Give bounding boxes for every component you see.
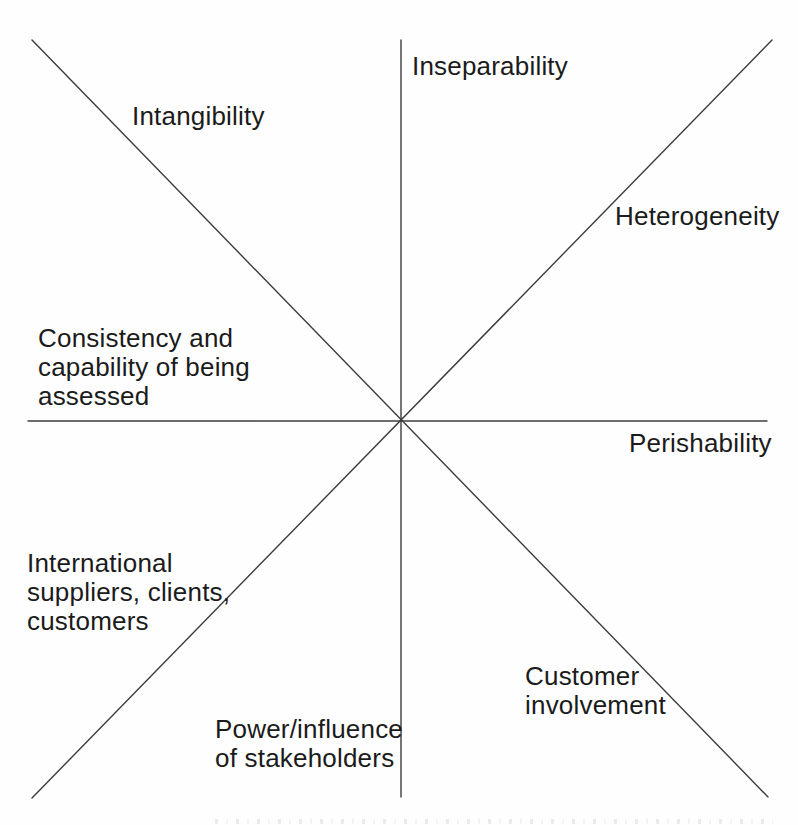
label-line: of stakeholders	[215, 744, 403, 773]
label-line: International	[27, 549, 230, 578]
label-line: capability of being	[38, 353, 250, 382]
label-power-influence-stakeholders: Power/influence of stakeholders	[215, 715, 403, 773]
spoke-lines	[0, 0, 798, 825]
label-line: Heterogeneity	[615, 202, 779, 231]
label-heterogeneity: Heterogeneity	[615, 202, 779, 231]
label-line: Perishability	[629, 429, 772, 458]
label-inseparability: Inseparability	[412, 52, 568, 81]
label-line: Consistency and	[38, 324, 250, 353]
label-line: assessed	[38, 382, 250, 411]
label-consistency-capability-assessed: Consistency and capability of being asse…	[38, 324, 250, 411]
label-intangibility: Intangibility	[132, 102, 265, 131]
label-perishability: Perishability	[629, 429, 772, 458]
label-line: Inseparability	[412, 52, 568, 81]
label-line: Intangibility	[132, 102, 265, 131]
label-line: Power/influence	[215, 715, 403, 744]
diagram-canvas: Inseparability Intangibility Heterogenei…	[0, 0, 798, 825]
label-line: customers	[27, 607, 230, 636]
cropped-caption-fragment	[215, 819, 773, 824]
label-international-suppliers-clients-customers: International suppliers, clients, custom…	[27, 549, 230, 636]
label-line: suppliers, clients,	[27, 578, 230, 607]
label-line: involvement	[525, 691, 666, 720]
label-customer-involvement: Customer involvement	[525, 662, 666, 720]
label-line: Customer	[525, 662, 666, 691]
